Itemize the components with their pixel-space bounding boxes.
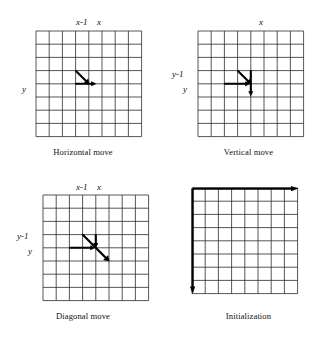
col-label-x: x [97, 17, 101, 27]
caption-diagonal-move: Diagonal move [0, 311, 166, 321]
diagonal-pointer-icon [76, 71, 89, 84]
grid-initialization [192, 188, 304, 300]
panel-vertical-move: x y-1 y [166, 0, 331, 170]
row-label-y-minus-1: y-1 [17, 231, 29, 241]
top-row-arrow-icon [193, 186, 299, 191]
row-label-y-minus-1: y-1 [172, 69, 184, 79]
grid-diagonal-move [43, 195, 150, 302]
row-label-y: y [28, 246, 32, 256]
row-label-y: y [183, 84, 187, 94]
panel-diagonal-move: x-1 x y-1 y [0, 170, 166, 349]
caption-horizontal-move: Horizontal move [0, 147, 166, 157]
grid-svg [36, 31, 143, 138]
caption-vertical-move: Vertical move [166, 147, 331, 157]
grid-svg [43, 195, 150, 302]
grid-svg [192, 188, 304, 300]
grid-lines [192, 188, 298, 294]
panel-horizontal-move: x-1 x y [0, 0, 166, 170]
caption-initialization: Initialization [166, 311, 331, 321]
grid-svg [198, 31, 305, 138]
col-label-x: x [97, 182, 101, 192]
panel-initialization: Initialization [166, 170, 331, 349]
grid-horizontal-move [36, 31, 143, 138]
left-column-arrow-icon [190, 189, 195, 294]
col-label-x-minus-1: x-1 [76, 17, 88, 27]
col-label-x-minus-1: x-1 [76, 182, 88, 192]
figure-four-panel-dp-moves: x-1 x y [0, 0, 331, 349]
grid-vertical-move [198, 31, 305, 138]
row-label-y: y [22, 84, 26, 94]
col-label-x: x [259, 17, 263, 27]
diagonal-pointer-icon [238, 71, 251, 84]
